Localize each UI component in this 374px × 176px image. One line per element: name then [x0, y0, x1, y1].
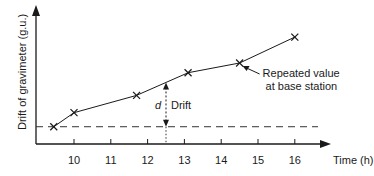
y-axis-label: Drift of gravimeter (g.u.) [16, 14, 28, 130]
data-point-marker [133, 92, 140, 99]
x-tick-label: 13 [178, 154, 190, 166]
callout-arrow-line [247, 68, 260, 74]
x-tick-label: 11 [105, 154, 116, 166]
data-point-marker [71, 109, 78, 116]
data-point-marker [291, 34, 298, 41]
drift-text-label: Drift [171, 99, 191, 111]
x-tick-label: 14 [215, 154, 227, 166]
series-line [54, 37, 295, 127]
x-tick-label: 12 [141, 154, 153, 166]
drift-symbol-label: d [155, 99, 162, 111]
callout-text-line1: Repeated value [263, 67, 340, 79]
x-axis-arrow-icon [320, 140, 331, 148]
drift-arrow-down-icon [163, 120, 169, 127]
x-tick-label: 15 [252, 154, 264, 166]
callout-text-line2: at base station [266, 80, 338, 92]
x-tick-label: 10 [68, 154, 80, 166]
x-axis-label: Time (h) [333, 154, 374, 166]
x-tick-label: 16 [289, 154, 301, 166]
y-axis-arrow-icon [32, 5, 40, 16]
drift-chart: 10111213141516 Time (h) Drift of gravime… [0, 0, 374, 176]
